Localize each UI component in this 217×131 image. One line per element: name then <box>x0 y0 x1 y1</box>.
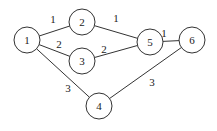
node-label: 2 <box>79 16 85 28</box>
edge-2-5 <box>94 26 137 39</box>
node-label: 4 <box>96 100 102 112</box>
edge-1-2 <box>39 26 69 36</box>
edge-5-6 <box>163 41 179 42</box>
edge-weight-label: 3 <box>149 76 155 88</box>
node-5: 5 <box>137 29 163 55</box>
node-label: 5 <box>147 36 153 48</box>
edge-weight-label: 1 <box>50 13 56 25</box>
node-1: 1 <box>14 27 40 53</box>
edge-weight-label: 2 <box>101 43 107 55</box>
node-2: 2 <box>69 9 95 35</box>
node-label: 1 <box>24 34 30 46</box>
node-4: 4 <box>86 93 112 119</box>
edge-weight-label: 3 <box>65 82 71 94</box>
node-label: 3 <box>79 55 85 67</box>
edge-1-3 <box>39 45 70 57</box>
node-6: 6 <box>179 27 205 53</box>
node-label: 6 <box>189 34 195 46</box>
node-3: 3 <box>69 48 95 74</box>
edge-weight-label: 2 <box>56 38 62 50</box>
edge-weight-label: 1 <box>113 12 119 24</box>
graph-diagram: 1231213123456 <box>0 0 217 131</box>
edge-4-6 <box>110 48 182 99</box>
